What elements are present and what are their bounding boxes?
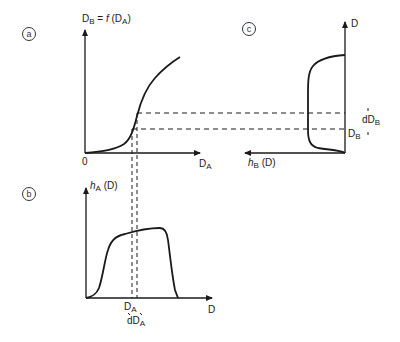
panel-a-marker: a [22,27,36,41]
panel-b-interval-label-dDA: dDA [127,316,145,328]
panel-a-origin-label: 0 [82,157,88,167]
panel-b-y-axis-label: hA (D) [90,181,118,193]
label-part: dD [127,315,140,326]
label-sub: A [206,162,211,171]
label-sub: B [375,118,380,127]
diagram-canvas [0,0,400,342]
label-part: ) [127,13,130,24]
panel-a-x-axis-label: DA [199,159,212,171]
dDA-tick-right [140,313,142,315]
panel-c-x-axis-label: hB (D) [248,158,276,170]
panel-b-x-axis-label: D [208,305,215,315]
panel-c-hB-curve [308,55,345,153]
label-sub: A [140,319,145,328]
panel-b-tick-label-DA: DA [124,302,137,314]
label-part: dD [362,114,375,125]
label-part: (D) [101,180,118,191]
label-part: (D) [259,157,276,168]
label-part: = [95,13,106,24]
label-sub: A [131,305,136,314]
panel-a-y-axis-label: DB = f (DA) [82,14,131,26]
label-sub: B [355,132,360,141]
label-part: (D [109,13,122,24]
panel-c-tick-label-DB: DB [348,129,361,141]
panel-b-marker: b [22,187,36,201]
panel-c-y-axis-label: D [351,19,358,29]
panel-c-marker: c [242,22,256,36]
panel-c-interval-label-dDB: dDB [362,115,380,127]
